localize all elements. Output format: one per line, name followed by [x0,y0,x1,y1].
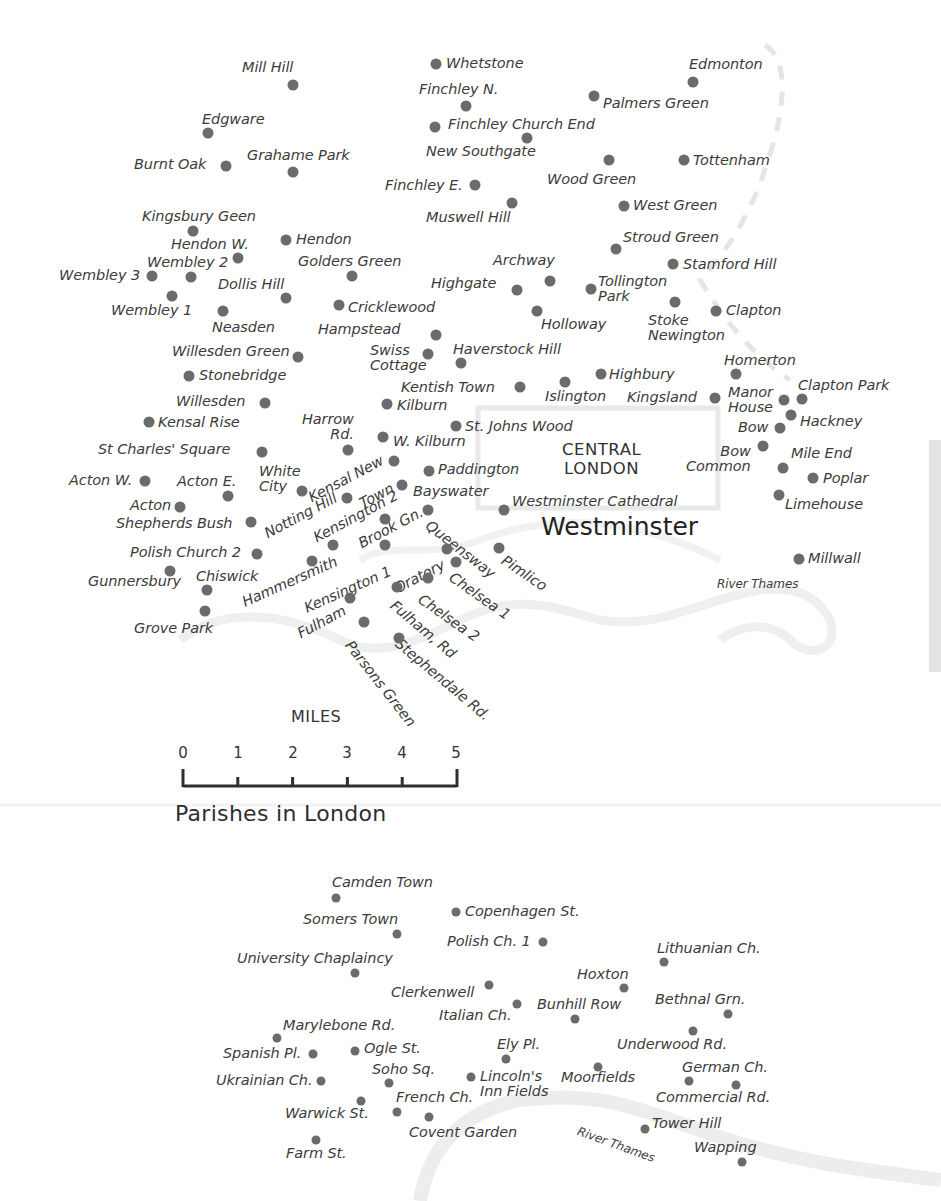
place-marker-polish-church-2 [252,549,263,560]
place-marker-islington [560,377,571,388]
place-label-covent-garden: Covent Garden [409,1125,517,1140]
place-label-ely-pl: Ely Pl. [497,1037,540,1052]
place-marker [392,582,403,593]
place-marker-limehouse [774,490,785,501]
place-marker-millwall [794,554,805,565]
place-marker [423,505,434,516]
place-label-chiswick: Chiswick [196,569,258,584]
place-marker-tollington-park [586,284,597,295]
place-label-tottenham: Tottenham [693,153,770,168]
place-label-mill-hill: Mill Hill [242,60,293,75]
place-marker-hampstead [431,330,442,341]
place-marker-manor-house [779,395,790,406]
place-label-golders-green: Golders Green [298,254,401,269]
side-scroll-tab[interactable] [929,440,941,672]
place-label-wembley-3: Wembley 3 [59,268,140,283]
place-marker-polish-ch-1 [539,938,548,947]
place-label-wapping: Wapping [694,1140,757,1155]
place-label-copenhagen-st: Copenhagen St. [465,904,579,919]
place-label-bow-common: Bow Common [686,444,751,474]
place-marker-tower-hill [641,1125,650,1134]
place-marker-acton [175,502,186,513]
place-marker [342,493,353,504]
place-label-bow: Bow [738,420,768,435]
place-marker-bayswater [397,480,408,491]
place-label-millwall: Millwall [808,551,861,566]
place-label-palmers-green: Palmers Green [603,96,709,111]
place-label-grahame-park: Grahame Park [247,148,350,163]
place-label-holloway: Holloway [541,317,606,332]
place-marker-finchley-e [470,180,481,191]
place-marker-lithuanian-ch [660,958,669,967]
place-label-commercial-rd: Commercial Rd. [656,1090,770,1105]
place-label-tollington-park: Tollington Park [598,274,667,304]
place-label-willesden-green: Willesden Green [172,344,290,359]
place-label-st-johns-wood: St. Johns Wood [465,419,573,434]
place-marker-west-green [619,201,630,212]
place-marker-dollis-hill [281,293,292,304]
place-label-dollis-hill: Dollis Hill [218,277,284,292]
place-marker-highbury [596,369,607,380]
place-label-wembley-1: Wembley 1 [111,303,192,318]
place-label-lithuanian-ch: Lithuanian Ch. [657,941,761,956]
place-label-islington: Islington [545,389,606,404]
place-label-hendon: Hendon [296,232,352,247]
place-marker [451,557,462,568]
place-label-ukrainian-ch: Ukrainian Ch. [216,1073,312,1088]
place-marker-covent-garden [425,1113,434,1122]
scale-title: MILES [291,707,341,726]
place-marker-clerkenwell [485,981,494,990]
place-marker-holloway [532,306,543,317]
place-marker-camden-town [332,894,341,903]
place-marker [394,633,405,644]
place-marker-neasden [218,306,229,317]
central-london-label: CENTRAL LONDON [562,441,641,479]
place-label-new-southgate: New Southgate [426,144,536,159]
place-label-hackney: Hackney [800,414,862,429]
place-marker-ogle-st [351,1047,360,1056]
place-marker-acton-e [223,491,234,502]
place-marker-clapton-park [797,394,808,405]
place-marker-italian-ch [513,1000,522,1009]
place-label-moorfields: Moorfields [561,1070,635,1085]
place-marker-hoxton [620,984,629,993]
place-label-homerton: Homerton [724,353,796,368]
place-marker-stamford-hill [668,259,679,270]
place-label-somers-town: Somers Town [303,912,398,927]
place-label-farm-st: Farm St. [286,1146,347,1161]
place-label-stonebridge: Stonebridge [199,368,286,383]
place-label-bayswater: Bayswater [413,484,488,499]
place-marker-mill-hill [288,80,299,91]
place-label-polish-church-2: Polish Church 2 [130,545,241,560]
place-marker-pimlico [494,543,505,554]
place-marker [307,556,318,567]
place-marker-chiswick [202,585,213,596]
place-marker-harrow-rd [343,445,354,456]
place-label-westminster-cathedral: Westminster Cathedral [512,494,677,509]
place-marker-somers-town [393,930,402,939]
place-label-neasden: Neasden [212,320,275,335]
place-marker-kingsland [710,393,721,404]
place-marker [380,514,391,525]
place-marker-poplar [808,473,819,484]
place-marker [345,593,356,604]
place-label-haverstock-hill: Haverstock Hill [453,342,561,357]
place-label-willesden: Willesden [176,394,245,409]
place-label-italian-ch: Italian Ch. [439,1008,511,1023]
place-label-highgate: Highgate [431,276,496,291]
place-label-kensal-rise: Kensal Rise [158,415,240,430]
place-label-archway: Archway [493,253,555,268]
place-label-kentish-town: Kentish Town [401,380,495,395]
place-label-manor-house: Manor House [728,385,773,415]
place-label-ogle-st: Ogle St. [364,1041,421,1056]
scale-tick-0: 0 [178,744,188,762]
parishes-map: CENTRAL LONDON Westminster River Thames … [0,0,941,1201]
place-label-hendon-w: Hendon W. [171,237,249,252]
place-label-clapton-park: Clapton Park [798,378,889,393]
place-marker-stonebridge [184,371,195,382]
place-marker [442,544,453,555]
place-label-hoxton: Hoxton [577,967,629,982]
place-marker-paddington [424,466,435,477]
place-marker [389,456,400,467]
place-marker-finchley-n [461,101,472,112]
